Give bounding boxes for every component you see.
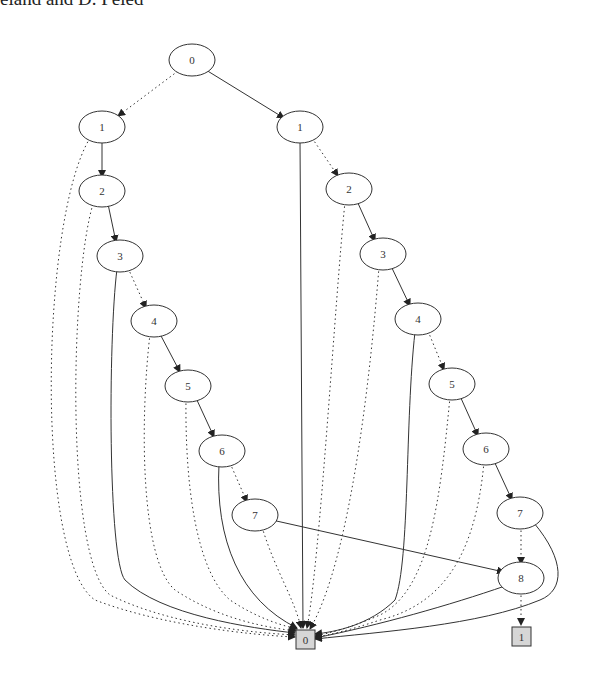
svg-text:8: 8	[518, 572, 524, 584]
edge-m6-low	[315, 462, 484, 637]
svg-text:2: 2	[99, 185, 105, 197]
svg-text:3: 3	[380, 248, 386, 260]
svg-text:1: 1	[297, 121, 303, 133]
edge-root-high	[206, 70, 284, 118]
edge-l7-high	[272, 520, 504, 572]
bdd-diagram: 0 1 2 3 4 5 6 7 1 2 3 4 5 6 7 8 0 1	[0, 0, 589, 683]
node-left-3: 3	[97, 240, 143, 272]
edge-l5-high	[196, 398, 214, 437]
node-right-3: 3	[360, 238, 406, 270]
node-left-6: 6	[199, 435, 245, 467]
edge-m3-high	[391, 266, 410, 306]
svg-text:6: 6	[483, 443, 489, 455]
node-right-1: 1	[277, 111, 323, 143]
node-left-5: 5	[165, 370, 211, 402]
node-right-2: 2	[326, 173, 372, 205]
edge-root-low	[118, 71, 178, 116]
svg-text:0: 0	[303, 634, 309, 646]
edge-l6-high	[219, 464, 297, 628]
edge-m5-low	[315, 397, 450, 636]
edge-l4-high	[160, 334, 180, 372]
node-left-2: 2	[79, 175, 125, 207]
node-left-4: 4	[131, 305, 177, 337]
svg-text:7: 7	[517, 507, 523, 519]
edge-m1-low	[312, 138, 338, 176]
node-root-0: 0	[169, 44, 215, 76]
edge-m3-low	[310, 267, 379, 629]
terminal-1: 1	[512, 627, 531, 646]
svg-text:4: 4	[151, 315, 157, 327]
node-right-7: 7	[497, 497, 543, 529]
svg-text:5: 5	[185, 380, 191, 392]
edge-m1-high	[300, 140, 303, 628]
edge-l3-low	[128, 268, 146, 308]
nodes: 0 1 2 3 4 5 6 7 1 2 3 4 5 6 7 8 0 1	[79, 44, 544, 649]
svg-text:1: 1	[99, 121, 105, 133]
svg-text:6: 6	[219, 445, 225, 457]
edge-l2-high	[108, 204, 116, 242]
edge-l6-low	[230, 463, 247, 502]
edge-m4-high	[315, 332, 415, 634]
edge-l7-low	[262, 527, 301, 628]
svg-text:4: 4	[415, 313, 421, 325]
svg-text:7: 7	[252, 509, 258, 521]
edges	[51, 70, 558, 639]
edge-n8-low	[315, 586, 505, 638]
node-right-5: 5	[429, 368, 475, 400]
edge-m2-low	[307, 202, 345, 628]
svg-text:2: 2	[346, 183, 352, 195]
edge-m2-high	[357, 201, 375, 241]
svg-text:5: 5	[449, 378, 455, 390]
svg-text:0: 0	[189, 54, 195, 66]
node-8: 8	[498, 562, 544, 594]
terminal-0: 0	[296, 630, 315, 649]
node-right-6: 6	[463, 433, 509, 465]
edge-m6-high	[494, 461, 512, 500]
svg-text:1: 1	[519, 631, 525, 643]
node-left-1: 1	[79, 111, 125, 143]
node-left-7: 7	[232, 499, 278, 531]
node-right-4: 4	[395, 303, 441, 335]
edge-m4-low	[428, 331, 444, 370]
svg-text:3: 3	[117, 250, 123, 262]
edge-m5-high	[460, 396, 478, 436]
